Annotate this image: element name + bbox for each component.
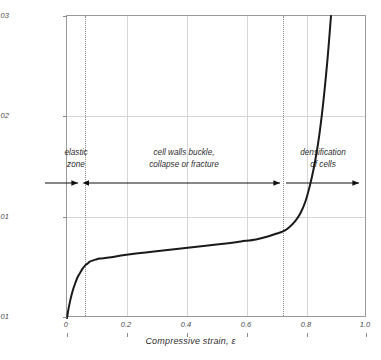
zone-label-cell-walls-line1: cell walls buckle, bbox=[149, 147, 219, 159]
x-tick-label: 1.0 bbox=[360, 320, 371, 329]
zone-label-cell-walls: cell walls buckle, collapse or fracture bbox=[149, 147, 219, 170]
x-tick-label: 0.4 bbox=[181, 320, 192, 329]
gridline-horizontal bbox=[67, 217, 365, 218]
y-tick-mark bbox=[63, 116, 67, 117]
zone-label-densification-line1: densification bbox=[300, 147, 346, 159]
zone-label-densification-line2: of cells bbox=[300, 159, 346, 171]
gridline-vertical bbox=[247, 16, 248, 316]
x-tick-label: 0.8 bbox=[301, 320, 312, 329]
gridline-horizontal bbox=[67, 116, 365, 117]
zone-label-densification: densification of cells bbox=[300, 147, 346, 170]
x-tick-label: 0.6 bbox=[241, 320, 252, 329]
x-tick-label: 0.2 bbox=[121, 320, 132, 329]
zone-label-elastic-line2: zone bbox=[64, 159, 87, 171]
y-tick-mark bbox=[63, 317, 67, 318]
y-tick-label: 0.02 bbox=[0, 111, 9, 120]
zone-label-cell-walls-line2: collapse or fracture bbox=[149, 159, 219, 171]
zone-divider-densification bbox=[283, 16, 284, 316]
x-tick-label: 0 bbox=[64, 320, 68, 329]
y-tick-label: 0.03 bbox=[0, 11, 9, 20]
zone-label-elastic-line1: elastic bbox=[64, 147, 87, 159]
zone-label-elastic: elastic zone bbox=[64, 147, 87, 170]
y-tick-mark bbox=[63, 217, 67, 218]
plot-area: elastic zone cell walls buckle, collapse… bbox=[66, 15, 366, 317]
y-tick-label: 0.01 bbox=[0, 212, 9, 221]
y-tick-mark bbox=[63, 16, 67, 17]
x-axis-title: Compressive strain, ε bbox=[0, 336, 381, 346]
gridline-vertical bbox=[127, 16, 128, 316]
stress-strain-figure: Compressive stress, σ (MPa) elastic zone… bbox=[0, 0, 381, 360]
y-tick-label: 0.01 bbox=[0, 312, 9, 321]
